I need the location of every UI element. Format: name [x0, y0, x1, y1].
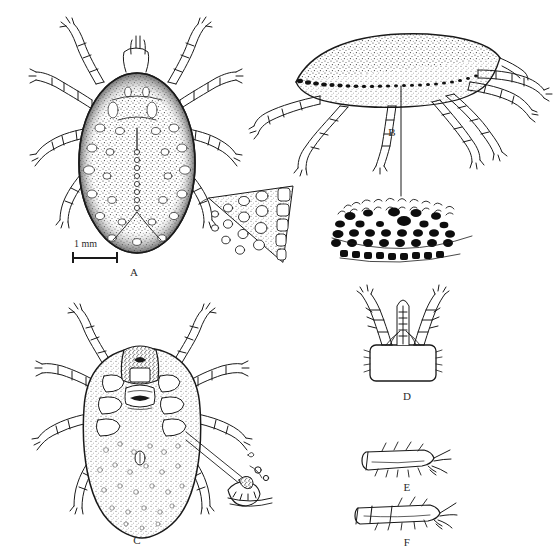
panel-d-capitulum [357, 285, 449, 381]
panel-b-lateral-tick [249, 34, 552, 196]
illustration-canvas [0, 0, 553, 559]
panel-label-d: D [397, 390, 417, 402]
panel-f-tarsus [355, 497, 457, 530]
scale-bar-tick-right [116, 252, 118, 263]
panel-c-ventral-tick [32, 303, 252, 538]
panel-label-a: A [124, 266, 144, 278]
scale-bar-tick-left [72, 252, 74, 263]
scale-bar-label: 1 mm [74, 238, 97, 249]
scale-bar [72, 252, 118, 263]
panel-d-basis-capituli [370, 345, 436, 381]
panel-a-dorsal-tick [29, 17, 243, 253]
panel-label-c: C [127, 534, 147, 546]
panel-label-f: F [397, 536, 417, 548]
panel-a-capitulum [123, 36, 148, 72]
panel-e-tarsus [362, 442, 451, 477]
figure-plate: 1 mm A B C D E F [0, 0, 553, 559]
panel-label-b: B [382, 126, 402, 138]
panel-label-e: E [397, 481, 417, 493]
scale-bar-line [72, 257, 118, 259]
panel-c-capitulum [121, 346, 158, 410]
panel-a-inset-punctation-wedge [199, 186, 293, 262]
panel-b-inset-festoon-detail [331, 198, 472, 262]
